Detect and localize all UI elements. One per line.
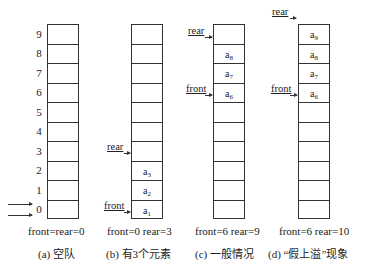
cell-a6: a6 [214, 84, 244, 104]
rear-arrow-icon [8, 215, 32, 216]
cell-a3: a3 [132, 162, 162, 182]
cell-a1: a1 [132, 201, 162, 221]
queue-array-a [47, 24, 79, 219]
index-0: 0 [34, 203, 44, 215]
front-label-d: front [271, 83, 291, 94]
rear-label-d: rear [272, 6, 288, 17]
index-1: 1 [34, 184, 44, 196]
front-arrow-icon [8, 204, 32, 205]
front-arrow-icon [205, 95, 212, 96]
cell-a8: a8 [299, 45, 329, 65]
caption-d: (d) “假上溢”现象 [268, 245, 348, 261]
cell-a6: a6 [299, 84, 329, 104]
index-4: 4 [34, 125, 44, 137]
caption-b: (b) 有3个元素 [106, 245, 171, 261]
rear-arrow-icon [205, 37, 212, 38]
caption-c: (c) 一般情况 [195, 245, 254, 261]
cell-a9: a9 [299, 25, 329, 45]
index-3: 3 [34, 145, 44, 157]
state-b: front=0 rear=3 [107, 225, 172, 237]
cell-a2: a2 [132, 181, 162, 201]
cell-a7: a7 [214, 64, 244, 84]
queue-array-c: a8 a7 a6 [213, 24, 245, 219]
queue-array-d: a9 a8 a7 a6 [298, 24, 330, 219]
cell-a8: a8 [214, 45, 244, 65]
rear-label-b: rear [107, 141, 123, 152]
state-d: front=6 rear=10 [279, 225, 349, 237]
index-5: 5 [34, 106, 44, 118]
rear-arrow-icon [124, 153, 130, 154]
index-9: 9 [34, 28, 44, 40]
index-8: 8 [34, 47, 44, 59]
index-7: 7 [34, 67, 44, 79]
caption-a: (a) 空队 [38, 245, 75, 261]
index-2: 2 [34, 164, 44, 176]
state-a: front=rear=0 [28, 225, 84, 237]
front-label-b: front [104, 200, 124, 211]
rear-arrow-icon [290, 18, 296, 19]
front-label-c: front [186, 83, 206, 94]
state-c: front=6 rear=9 [195, 225, 260, 237]
rear-label-c: rear [188, 25, 204, 36]
cell-a7: a7 [299, 64, 329, 84]
front-arrow-icon [124, 212, 130, 213]
queue-array-b: a3 a2 a1 [131, 24, 163, 219]
front-arrow-icon [290, 95, 297, 96]
index-6: 6 [34, 86, 44, 98]
